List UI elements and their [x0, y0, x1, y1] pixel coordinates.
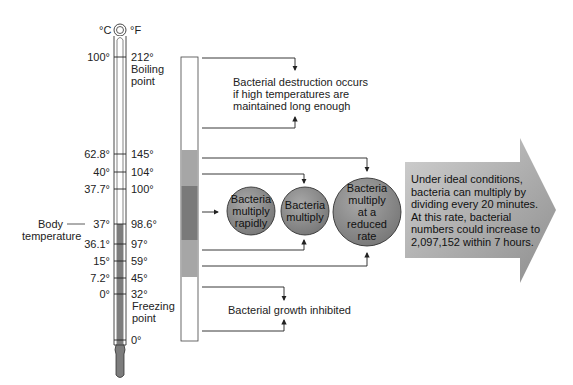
circle-multiply-text: Bacteria multiply: [281, 199, 329, 223]
destruction-line-1: Bacterial destruction occurs: [233, 76, 368, 88]
mercury-column: [117, 224, 123, 345]
tick-c-40: 40°: [70, 166, 110, 178]
freezing-label-2: point: [132, 312, 156, 324]
freezing-label-1: Freezing: [132, 300, 175, 312]
tick-c-37-7: 37.7°: [70, 183, 110, 195]
tick-f-100: 100°: [131, 183, 154, 195]
circle-rapidly-text: Bacteria multiply rapidly: [227, 193, 275, 229]
thermometer-bulb: [115, 345, 125, 378]
circle-reduced-text: Bacteria multiply at a reduced rate: [337, 182, 397, 242]
thermometer: [67, 24, 126, 378]
celsius-unit: °C: [99, 24, 111, 36]
tick-c-36-1: 36.1°: [70, 238, 110, 250]
tick-c-37: 37°: [70, 218, 110, 230]
tick-f-0: 0°: [131, 334, 142, 346]
tick-f-97: 97°: [131, 238, 148, 250]
boiling-label-2: point: [131, 75, 155, 87]
tick-c-100: 100°: [70, 51, 110, 63]
callout-text: Under ideal conditions, bacteria can mul…: [411, 173, 541, 249]
fahrenheit-unit: °F: [130, 24, 141, 36]
tick-c-15: 15°: [70, 255, 110, 267]
tick-f-98-6: 98.6°: [131, 218, 157, 230]
tick-f-212: 212°: [131, 51, 154, 63]
tick-f-145: 145°: [131, 148, 154, 160]
growth-inhibited-label: Bacterial growth inhibited: [228, 304, 351, 316]
boiling-label-1: Boiling: [131, 63, 164, 75]
tick-c-0: 0°: [70, 288, 110, 300]
thermometer-top-ring: [114, 24, 126, 36]
tick-f-32: 32°: [131, 288, 148, 300]
tick-f-59: 59°: [131, 255, 148, 267]
tick-c-7-2: 7.2°: [70, 272, 110, 284]
tick-c-62-8: 62.8°: [70, 148, 110, 160]
tick-f-45: 45°: [131, 272, 148, 284]
tick-f-104: 104°: [131, 166, 154, 178]
temperature-zone-bar: [181, 57, 198, 341]
destruction-line-2: if high temperatures are: [233, 88, 349, 100]
body-label-1: Body: [38, 218, 63, 230]
destruction-line-3: maintained long enough: [233, 100, 350, 112]
